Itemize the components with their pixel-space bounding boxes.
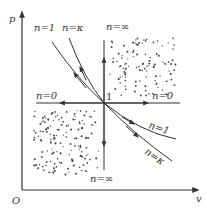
ninf-top-label: n=∞ (106, 21, 129, 32)
arrow-icon (126, 126, 138, 137)
n1-label: n=1 (34, 22, 55, 33)
ninf-bottom-label: n=∞ (90, 173, 113, 184)
origin-label: O (12, 195, 20, 206)
n0-left-label: n=0 (36, 90, 58, 101)
pv-diagram: p v O 1 n=1 n=κ n=0 n=0 n=∞ n=∞ n=1 n=κ (0, 0, 207, 212)
upper-right-region-dots (109, 38, 176, 97)
point-1-label: 1 (106, 91, 112, 102)
v-axis-label: v (196, 193, 202, 204)
n1-lower-label: n=1 (147, 119, 171, 136)
n0-right-label: n=0 (152, 90, 174, 101)
nk-lower-label: n=κ (143, 146, 167, 168)
nk-label: n=κ (62, 22, 84, 33)
p-axis-label: p (9, 13, 16, 24)
arrow-icon (122, 117, 134, 124)
lower-left-region-dots (33, 110, 99, 176)
